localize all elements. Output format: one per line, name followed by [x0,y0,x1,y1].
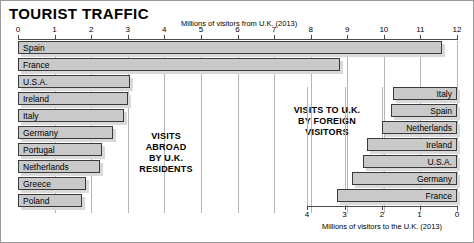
top-axis-tick-label: 11 [416,25,424,34]
bar-row: Netherlands [307,121,457,134]
top-axis-tick [128,35,129,40]
bar-label: U.S.A. [427,157,452,168]
page-title: TOURIST TRAFFIC [9,5,149,22]
bar: Italy [393,87,457,100]
visits-abroad-caption-line: RESIDENTS [121,164,211,175]
bar-label: Portugal [23,145,55,156]
top-axis-tick-label: 5 [199,25,203,34]
bar: Poland [18,194,82,207]
top-axis-tick [164,35,165,40]
bar-label: Poland [23,196,49,207]
visits-to-uk-chart: ItalySpainNetherlandsIrelandU.S.A.German… [307,87,457,206]
bar: Italy [18,109,124,122]
bar: Netherlands [18,160,100,173]
top-axis-tick [457,35,458,40]
visits-abroad-caption-line: VISITS [121,131,211,142]
top-axis: 0123456789101112 [18,28,457,40]
bar: Netherlands [382,121,457,134]
bar: France [337,189,457,202]
top-axis-tick-label: 12 [453,25,462,34]
bottom-axis-tick-label: 0 [455,210,459,219]
bottom-axis: 43210 [307,206,457,220]
bar-row: France [307,189,457,202]
top-axis-tick [18,35,19,40]
bar-label: Ireland [426,140,452,151]
bottom-axis-tick-label: 4 [305,210,309,219]
bar-label: Ireland [23,94,49,105]
top-axis-tick [420,35,421,40]
bar-label: France [426,191,452,202]
bar-label: Netherlands [23,162,69,173]
bottom-axis-label: Millions of visitors to the U.K. (2013) [307,222,457,231]
top-axis-tick [201,35,202,40]
top-axis-tick-label: 8 [308,25,312,34]
bar: U.S.A. [18,75,130,88]
top-axis-tick-label: 6 [235,25,239,34]
bar-label: Spain [430,106,452,117]
bar: Ireland [18,92,128,105]
top-axis-tick-label: 1 [52,25,56,34]
top-axis-tick-label: 4 [162,25,166,34]
top-axis-tick-label: 0 [16,25,20,34]
bar-label: Netherlands [406,123,452,134]
bar: Germany [18,126,113,139]
top-axis-tick-label: 7 [272,25,276,34]
bar: Portugal [18,143,102,156]
top-axis-tick [238,35,239,40]
visits-abroad-caption-line: ABROAD [121,142,211,153]
bar: Ireland [367,138,457,151]
bar-label: U.S.A. [23,77,48,88]
top-axis-tick [55,35,56,40]
bar: France [18,58,340,71]
top-axis-tick [311,35,312,40]
top-axis-tick [384,35,385,40]
bar-label: Germany [417,174,452,185]
bottom-axis-tick-label: 2 [380,210,384,219]
top-axis-tick-label: 9 [345,25,349,34]
bar-row: U.S.A. [307,155,457,168]
visits-abroad-caption: VISITSABROADBY U.K.RESIDENTS [121,131,211,175]
top-axis-tick-label: 3 [126,25,130,34]
bar-label: Italy [23,111,39,122]
bar-row: Germany [307,172,457,185]
bar-label: France [23,60,49,71]
bar-label: Germany [23,128,58,139]
bar: Germany [352,172,457,185]
bar-row: Italy [307,87,457,100]
bar: Greece [18,177,86,190]
top-axis-tick [274,35,275,40]
bottom-axis-tick-label: 1 [417,210,421,219]
tourist-traffic-infographic: TOURIST TRAFFIC Millions of visitors fro… [0,0,474,243]
top-axis-tick [91,35,92,40]
top-axis-tick [347,35,348,40]
top-axis-tick-label: 10 [379,25,388,34]
bar: Spain [18,41,442,54]
bar-label: Italy [436,89,452,100]
bar-row: Ireland [307,138,457,151]
bar: U.S.A. [363,155,457,168]
bottom-axis-tick-label: 3 [342,210,346,219]
bar-row: Spain [18,41,457,54]
bar-label: Spain [23,43,45,54]
bar-row: France [18,58,457,71]
top-axis-tick-label: 2 [89,25,93,34]
bar-label: Greece [23,179,51,190]
visits-abroad-caption-line: BY U.K. [121,153,211,164]
bar-row: Spain [307,104,457,117]
bar: Spain [391,104,457,117]
